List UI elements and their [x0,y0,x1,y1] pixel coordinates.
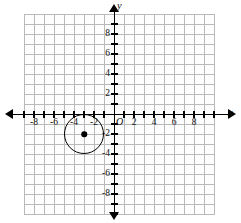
y-tick [111,103,118,104]
y-tick [111,33,118,34]
y-tick [111,193,118,194]
x-tick-label: 4 [152,118,157,128]
y-tick [111,63,118,64]
x-tick-label: -6 [50,118,58,128]
y-tick [111,43,118,44]
y-tick [111,53,118,54]
y-tick [111,213,118,214]
y-tick-label: -6 [92,169,110,179]
y-tick-label: 2 [92,89,110,99]
x-tick [43,111,44,118]
y-tick [111,93,118,94]
y-tick [111,203,118,204]
x-tick [163,111,164,118]
y-tick [111,143,118,144]
y-tick [111,73,118,74]
x-tick-label: 8 [192,118,197,128]
y-tick-label: 6 [92,49,110,59]
x-tick [203,111,204,118]
y-tick-label: 4 [92,69,110,79]
x-tick [103,111,104,118]
origin-label: O [116,117,123,127]
y-tick [111,23,118,24]
y-tick [111,173,118,174]
y-tick-label: -8 [92,189,110,199]
x-tick [213,111,214,118]
x-tick [183,111,184,118]
y-tick [111,83,118,84]
x-tick-label: 6 [172,118,177,128]
y-tick [111,163,118,164]
y-tick-label: 8 [92,29,110,39]
x-tick-label: 2 [132,118,137,128]
y-tick [111,153,118,154]
x-tick [63,111,64,118]
circle-center-dot [81,131,87,137]
x-tick [23,111,24,118]
x-axis-label: x [228,108,233,119]
y-tick [111,183,118,184]
x-tick-label: -8 [30,118,38,128]
x-tick [123,111,124,118]
x-tick [143,111,144,118]
y-tick [111,133,118,134]
coordinate-plane-figure: -8-6-4-22468 8642-2-4-6-8 O x y [0,0,241,223]
y-axis-line [114,8,116,216]
x-axis-left-arrow-icon [5,109,13,119]
y-axis-label: y [117,1,122,12]
